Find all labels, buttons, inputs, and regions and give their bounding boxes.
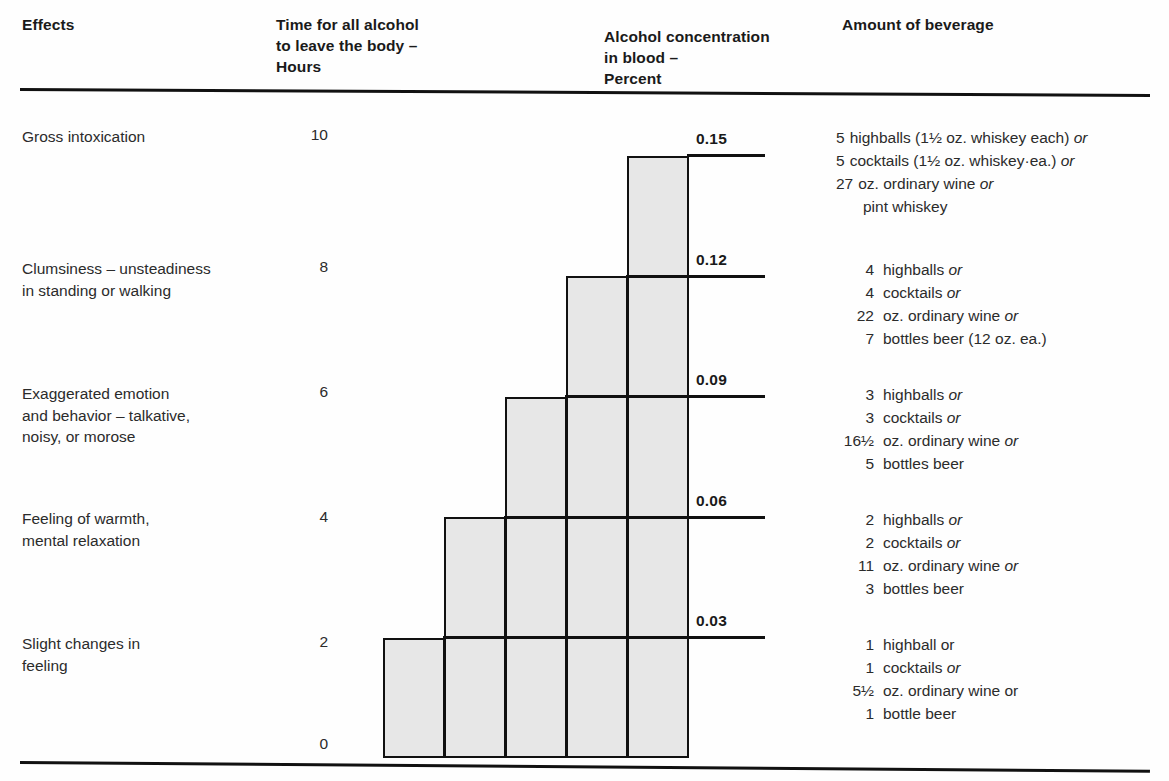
effect-label-slight-changes: Slight changes in feeling [22, 633, 272, 676]
beverage-line: 16½oz. ordinary wine or [836, 429, 1166, 452]
beverage-line: 7bottles beer (12 oz. ea.) [836, 327, 1166, 350]
conc-label-0.06: 0.06 [696, 492, 727, 510]
effect-label-exaggerated-emotion: Exaggerated emotion and behavior – talka… [22, 383, 272, 448]
conc-rule-0.06 [504, 516, 765, 519]
effect-label-feeling-of-warmth: Feeling of warmth, mental relaxation [22, 508, 272, 551]
column-header-concentration: Alcohol concentration in blood – Percent [604, 26, 770, 89]
conc-rule-0.15 [687, 154, 765, 157]
effect-label-gross-intoxication: Gross intoxication [22, 126, 272, 148]
beverage-line: 3highballs or [836, 383, 1166, 406]
beverage-group-0.09: 3highballs or 3cocktails or 16½oz. ordin… [836, 383, 1166, 475]
beverage-line: pint whiskey [836, 195, 1166, 218]
conc-label-0.09: 0.09 [696, 371, 727, 389]
beverage-line: 27oz. ordinary wine or [836, 172, 1166, 195]
footer-divider-rule [20, 761, 1150, 773]
conc-label-0.15: 0.15 [696, 130, 727, 148]
conc-rule-0.09 [565, 395, 765, 398]
hour-tick-10: 10 [288, 126, 328, 144]
alcohol-effects-chart: Effects Time for all alcohol to leave th… [0, 0, 1169, 781]
beverage-line: 11oz. ordinary wine or [836, 554, 1166, 577]
beverage-line: 2cocktails or [836, 531, 1166, 554]
bar-0.15 [627, 156, 689, 759]
beverage-group-0.15: 5highballs (1½ oz. whiskey each) or 5coc… [836, 126, 1166, 218]
beverage-line: 3cocktails or [836, 406, 1166, 429]
beverage-group-0.12: 4highballs or 4cocktails or 22oz. ordina… [836, 258, 1166, 350]
beverage-line: 5½oz. ordinary wine or [836, 679, 1166, 702]
hour-tick-0: 0 [288, 735, 328, 753]
hour-tick-4: 4 [288, 508, 328, 526]
header-divider-rule [20, 88, 1150, 97]
hour-tick-2: 2 [288, 633, 328, 651]
beverage-line: 2highballs or [836, 508, 1166, 531]
beverage-line: 5bottles beer [836, 452, 1166, 475]
column-header-time: Time for all alcohol to leave the body –… [276, 14, 419, 77]
bar-0.09 [505, 397, 567, 759]
bar-0.03 [383, 638, 445, 759]
hour-tick-6: 6 [288, 383, 328, 401]
effect-label-clumsiness: Clumsiness – unsteadiness in standing or… [22, 258, 272, 301]
beverage-line: 1highball or [836, 633, 1166, 656]
beverage-line: 1cocktails or [836, 656, 1166, 679]
beverage-line: 1bottle beer [836, 702, 1166, 725]
beverage-line: 4highballs or [836, 258, 1166, 281]
hour-tick-8: 8 [288, 258, 328, 276]
conc-label-0.03: 0.03 [696, 612, 727, 630]
beverage-line: 5cocktails (1½ oz. whiskey·ea.) or [836, 149, 1166, 172]
beverage-line: 3bottles beer [836, 577, 1166, 600]
column-header-effects: Effects [22, 14, 74, 35]
column-header-amount: Amount of beverage [842, 14, 994, 35]
beverage-line: 4cocktails or [836, 281, 1166, 304]
beverage-group-0.03: 1highball or 1cocktails or 5½oz. ordinar… [836, 633, 1166, 725]
beverage-group-0.06: 2highballs or 2cocktails or 11oz. ordina… [836, 508, 1166, 600]
beverage-line: 5highballs (1½ oz. whiskey each) or [836, 126, 1166, 149]
conc-rule-0.12 [626, 275, 765, 278]
conc-rule-0.03 [443, 636, 765, 639]
beverage-line: 22oz. ordinary wine or [836, 304, 1166, 327]
conc-label-0.12: 0.12 [696, 251, 727, 269]
